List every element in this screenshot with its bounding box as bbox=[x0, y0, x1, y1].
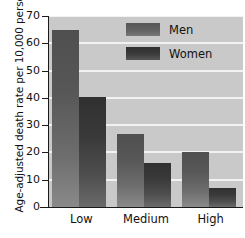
y-tick-label: 20 bbox=[8, 145, 40, 158]
y-tick-mark bbox=[42, 71, 49, 72]
bar-medium-men bbox=[117, 134, 144, 207]
bar-high-men bbox=[182, 152, 209, 207]
y-tick-label: 60 bbox=[8, 36, 40, 49]
x-tick-label-low: Low bbox=[49, 212, 114, 226]
legend-label-women: Women bbox=[169, 47, 212, 61]
y-tick-label: 50 bbox=[8, 64, 40, 77]
bar-high-women bbox=[209, 188, 236, 207]
bar-chart: Age-adjusted death rate per 10,000 perso… bbox=[0, 0, 245, 238]
y-tick-label: 30 bbox=[8, 118, 40, 131]
y-tick-mark bbox=[42, 207, 49, 208]
bar-low-men bbox=[52, 30, 79, 207]
legend-swatch-men-icon bbox=[126, 23, 160, 36]
legend-swatch-women-icon bbox=[126, 47, 160, 60]
bar-medium-women bbox=[144, 163, 171, 207]
y-tick-label: 40 bbox=[8, 91, 40, 104]
legend: Men Women bbox=[126, 20, 212, 68]
y-tick-mark bbox=[42, 43, 49, 44]
y-tick-label: 70 bbox=[8, 9, 40, 22]
x-axis-line bbox=[40, 207, 243, 208]
legend-item-men: Men bbox=[126, 20, 212, 39]
y-tick-mark bbox=[42, 16, 49, 17]
y-tick-mark bbox=[42, 180, 49, 181]
legend-item-women: Women bbox=[126, 44, 212, 63]
bar-low-women bbox=[79, 97, 106, 207]
y-tick-label: 10 bbox=[8, 173, 40, 186]
gridline bbox=[49, 16, 243, 17]
y-tick-label: 0 bbox=[8, 200, 40, 213]
legend-label-men: Men bbox=[169, 23, 193, 37]
y-tick-mark bbox=[42, 98, 49, 99]
y-tick-mark bbox=[42, 125, 49, 126]
y-tick-mark bbox=[42, 152, 49, 153]
x-tick-label-high: High bbox=[178, 212, 243, 226]
x-tick-label-medium: Medium bbox=[114, 212, 179, 226]
